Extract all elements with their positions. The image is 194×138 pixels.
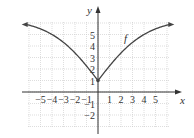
- x-tick-label: −2: [70, 94, 81, 105]
- x-tick-label: −3: [58, 94, 69, 105]
- x-tick-label: 2: [119, 94, 124, 105]
- grid: [28, 22, 170, 128]
- minimum-point: [96, 79, 100, 83]
- x-axis-label: x: [179, 94, 185, 106]
- y-tick-label: −1: [84, 99, 95, 110]
- x-tick-label: 4: [142, 94, 147, 105]
- function-graph: −5−4−3−2−112345−2−112345 f x y: [0, 0, 194, 138]
- y-tick-label: 5: [90, 30, 95, 41]
- x-tick-label: 1: [107, 94, 112, 105]
- x-tick-label: 3: [130, 94, 135, 105]
- x-tick-label: −4: [47, 94, 58, 105]
- left-arrow-icon: [22, 22, 28, 27]
- y-tick-label: 4: [90, 41, 95, 52]
- y-axis-label: y: [86, 4, 92, 16]
- y-tick-label: 1: [90, 76, 95, 87]
- x-tick-label: 5: [153, 94, 158, 105]
- x-tick-label: −5: [35, 94, 46, 105]
- y-tick-label: −2: [84, 110, 95, 121]
- graph-canvas: −5−4−3−2−112345−2−112345 f x y: [0, 0, 194, 138]
- curve-label-f: f: [124, 32, 129, 44]
- tick-labels: −5−4−3−2−112345−2−112345: [35, 30, 158, 122]
- y-tick-label: 3: [90, 53, 95, 64]
- right-arrow-icon: [168, 22, 174, 27]
